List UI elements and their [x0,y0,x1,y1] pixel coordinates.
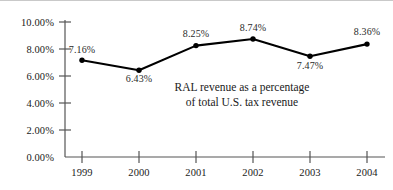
y-axis-tick-label-4: 4.00% [2,98,54,109]
chart-annotation-line-1: RAL revenue as a percentage [152,80,332,95]
x-axis-tick-label-2000: 2000 [116,167,162,178]
x-axis-tick-label-2001: 2001 [173,167,219,178]
y-axis-tick-label-6: 6.00% [2,71,54,82]
data-point-marker [364,41,369,46]
data-point-marker [307,54,312,59]
y-axis-tick-label-0: 0.00% [2,152,54,163]
y-axis-tick-label-2: 2.00% [2,125,54,136]
x-axis-tick-label-1999: 1999 [59,167,105,178]
y-axis-tick-label-10: 10.00% [2,17,54,28]
x-axis-tick-label-2003: 2003 [287,167,333,178]
data-point-marker [250,36,255,41]
chart-annotation-line-2: of total U.S. tax revenue [152,95,332,110]
data-point-marker [79,58,84,63]
x-axis-tick-label-2002: 2002 [230,167,276,178]
data-label-2001: 8.25% [175,29,217,39]
chart-figure: 10.00% 8.00% 6.00% 4.00% 2.00% 0.00% 199… [0,0,393,190]
data-label-2004: 8.36% [346,27,388,37]
x-axis-tick-label-2004: 2004 [344,167,390,178]
data-label-1999: 7.16% [61,45,103,55]
data-point-marker [193,43,198,48]
chart-annotation: RAL revenue as a percentage of total U.S… [152,80,332,110]
y-axis-tick-label-8: 8.00% [2,44,54,55]
data-label-2002: 8.74% [232,23,274,33]
data-label-2003: 7.47% [289,61,331,71]
